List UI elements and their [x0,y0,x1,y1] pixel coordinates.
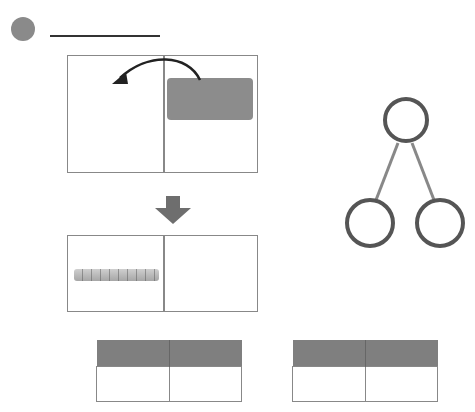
number-bond [340,90,470,250]
table1-header-ones [169,340,242,367]
bond-line-left [376,143,398,200]
problem-number-badge [11,17,35,41]
table1-header-tens [97,340,170,367]
table1-tens-cell[interactable] [97,367,170,402]
part-circle-right[interactable] [417,200,463,246]
bond-line-right [412,143,434,200]
table2-ones-cell[interactable] [365,367,438,402]
whole-circle [385,99,427,141]
curved-arrow-icon [108,54,208,94]
table2-tens-cell[interactable] [293,367,366,402]
mat-divider [163,236,165,311]
place-value-table-1 [96,340,242,402]
down-arrow-icon [155,196,191,224]
bottom-place-value-mat [67,235,258,312]
answer-blank[interactable] [50,13,160,37]
part-circle-left[interactable] [347,200,393,246]
table2-header-ones [365,340,438,367]
place-value-table-2 [292,340,438,402]
ten-rod [74,269,159,281]
problem-statement [44,13,166,43]
table1-ones-cell[interactable] [169,367,242,402]
table2-header-tens [293,340,366,367]
